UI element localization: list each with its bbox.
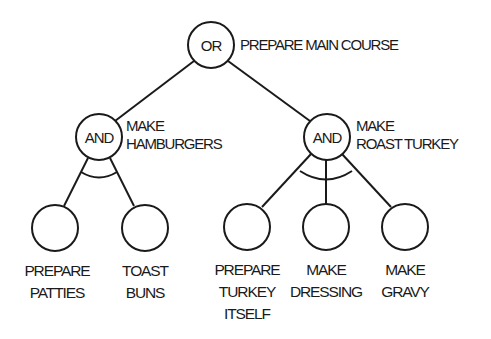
prepare-turkey-label-line-1: PREPARE [214, 261, 280, 278]
or-gate-text: OR [201, 37, 223, 54]
edge-hamburgers-to-buns [110, 158, 134, 206]
gravy-label-line-2: GRAVY [381, 283, 429, 300]
leaf-prepare-patties: PREPARE PATTIES [24, 205, 90, 301]
buns-label-line-1: TOAST [122, 262, 170, 279]
and-gate-text-roast-turkey: AND [313, 129, 343, 146]
leaf-circle-prepare-turkey [224, 204, 270, 250]
and-gate-text-hamburgers: AND [85, 129, 115, 146]
leaf-make-gravy: MAKE GRAVY [381, 204, 429, 300]
node-or-prepare-main-course: OR PREPARE MAIN COURSE [188, 22, 399, 68]
hamburgers-label-line-2: HAMBURGERS [126, 135, 223, 152]
buns-label-line-2: BUNS [126, 284, 165, 301]
node-and-make-hamburgers: AND MAKE HAMBURGERS [76, 114, 223, 160]
leaf-toast-buns: TOAST BUNS [122, 205, 170, 301]
and-or-tree-diagram: OR PREPARE MAIN COURSE AND MAKE HAMBURGE… [0, 0, 491, 339]
edge-root-to-hamburgers [115, 61, 194, 121]
edge-root-to-roast-turkey [228, 61, 310, 121]
leaf-circle-buns [122, 205, 168, 251]
and-arc-hamburgers [81, 172, 117, 178]
gravy-label-line-1: MAKE [385, 261, 425, 278]
dressing-label-line-2: DRESSING [290, 283, 362, 300]
leaf-circle-gravy [382, 204, 428, 250]
edge-hamburgers-to-patties [64, 158, 88, 206]
node-and-make-roast-turkey: AND MAKE ROAST TURKEY [304, 114, 459, 160]
leaf-prepare-turkey-itself: PREPARE TURKEY ITSELF [214, 204, 280, 322]
leaf-circle-dressing [303, 204, 349, 250]
leaf-make-dressing: MAKE DRESSING [290, 204, 362, 300]
roast-turkey-label-line-2: ROAST TURKEY [356, 135, 459, 152]
root-label: PREPARE MAIN COURSE [240, 36, 399, 53]
roast-turkey-label-line-1: MAKE [356, 117, 395, 134]
prepare-turkey-label-line-3: ITSELF [224, 305, 271, 322]
edge-turkey-to-prepare-turkey [262, 154, 311, 207]
prepare-turkey-label-line-2: TURKEY [219, 283, 276, 300]
patties-label-line-1: PREPARE [24, 262, 90, 279]
hamburgers-label-line-1: MAKE [126, 117, 165, 134]
dressing-label-line-1: MAKE [306, 261, 346, 278]
patties-label-line-2: PATTIES [30, 284, 85, 301]
leaf-circle-patties [32, 205, 78, 251]
edge-turkey-to-gravy [342, 154, 391, 207]
